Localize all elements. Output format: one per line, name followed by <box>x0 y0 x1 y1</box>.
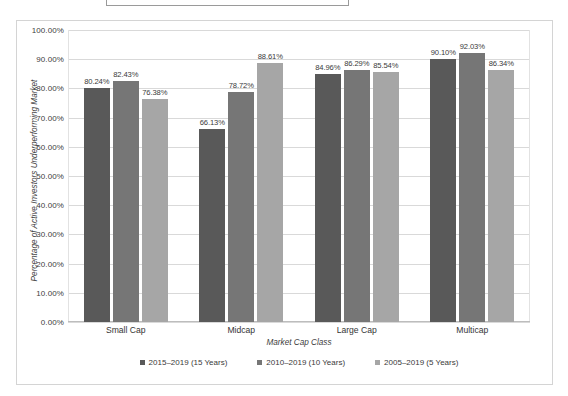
bar-value-label: 80.24% <box>84 77 109 86</box>
y-axis-tick-label: 30.00% <box>36 230 64 239</box>
bar-value-label: 66.13% <box>200 118 225 127</box>
chart-legend: 2015–2019 (15 Years)2010–2019 (10 Years)… <box>68 358 530 367</box>
bar-value-label: 84.96% <box>315 63 340 72</box>
bar-value-label: 90.10% <box>431 48 456 57</box>
bar[interactable]: 80.24% <box>84 88 110 322</box>
x-axis-category-label: Multicap <box>415 325 531 335</box>
bar-group: 90.10%92.03%86.34% <box>415 30 531 322</box>
bar[interactable]: 86.29% <box>344 70 370 322</box>
bar-group: 84.96%86.29%85.54% <box>299 30 415 322</box>
bar-slot: 92.03% <box>459 53 485 322</box>
bar-slot: 78.72% <box>228 92 254 322</box>
bar-value-label: 82.43% <box>113 70 138 79</box>
bar-groups: 80.24%82.43%76.38%66.13%78.72%88.61%84.9… <box>68 30 530 322</box>
y-axis-tick-label: 60.00% <box>36 142 64 151</box>
y-axis-tick-label: 0.00% <box>41 318 64 327</box>
bar-slot: 76.38% <box>142 99 168 322</box>
legend-label: 2005–2019 (5 Years) <box>384 358 458 367</box>
title-box <box>106 0 349 6</box>
bar[interactable]: 66.13% <box>199 129 225 322</box>
gridline <box>68 322 530 323</box>
bar[interactable]: 84.96% <box>315 74 341 322</box>
bar[interactable]: 85.54% <box>373 72 399 322</box>
bar[interactable]: 82.43% <box>113 81 139 322</box>
y-axis-tick-label: 100.00% <box>32 26 64 35</box>
legend-item[interactable]: 2010–2019 (10 Years) <box>257 358 345 367</box>
x-axis-category-labels: Small CapMidcapLarge CapMulticap <box>68 325 530 335</box>
y-axis-tick-label: 80.00% <box>36 84 64 93</box>
bar[interactable]: 88.61% <box>257 63 283 322</box>
bar-slot: 66.13% <box>199 129 225 322</box>
bar-slot: 80.24% <box>84 88 110 322</box>
bar-value-label: 86.29% <box>344 59 369 68</box>
bar[interactable]: 76.38% <box>142 99 168 322</box>
legend-swatch-icon <box>140 360 145 365</box>
bar[interactable]: 86.34% <box>488 70 514 322</box>
bar-value-label: 76.38% <box>142 88 167 97</box>
y-axis-tick-label: 10.00% <box>36 288 64 297</box>
bar-value-label: 92.03% <box>460 42 485 51</box>
bar-slot: 86.34% <box>488 70 514 322</box>
bar-slot: 85.54% <box>373 72 399 322</box>
legend-swatch-icon <box>375 360 380 365</box>
bar-slot: 86.29% <box>344 70 370 322</box>
plot-area: 80.24%82.43%76.38%66.13%78.72%88.61%84.9… <box>68 30 530 322</box>
y-axis-tick-label: 40.00% <box>36 201 64 210</box>
y-axis-tick-label: 50.00% <box>36 172 64 181</box>
legend-item[interactable]: 2015–2019 (15 Years) <box>140 358 228 367</box>
legend-label: 2010–2019 (10 Years) <box>266 358 345 367</box>
x-axis-category-label: Midcap <box>184 325 300 335</box>
x-axis-title: Market Cap Class <box>68 338 530 347</box>
legend-swatch-icon <box>257 360 262 365</box>
legend-item[interactable]: 2005–2019 (5 Years) <box>375 358 458 367</box>
y-axis-tick-labels: 0.00%10.00%20.00%30.00%40.00%50.00%60.00… <box>16 30 64 322</box>
bar[interactable]: 92.03% <box>459 53 485 322</box>
bar-slot: 82.43% <box>113 81 139 322</box>
bar-group: 66.13%78.72%88.61% <box>184 30 300 322</box>
bar-slot: 84.96% <box>315 74 341 322</box>
bar-value-label: 85.54% <box>373 61 398 70</box>
x-axis-category-label: Large Cap <box>299 325 415 335</box>
chart-page: 0.00%10.00%20.00%30.00%40.00%50.00%60.00… <box>0 0 568 396</box>
x-axis-category-label: Small Cap <box>68 325 184 335</box>
y-axis-tick-label: 90.00% <box>36 55 64 64</box>
y-axis-tick-label: 20.00% <box>36 259 64 268</box>
y-axis-tick-label: 70.00% <box>36 113 64 122</box>
bar-slot: 88.61% <box>257 63 283 322</box>
bar-value-label: 78.72% <box>229 81 254 90</box>
bar-slot: 90.10% <box>430 59 456 322</box>
bar-value-label: 86.34% <box>489 59 514 68</box>
legend-label: 2015–2019 (15 Years) <box>149 358 228 367</box>
bar-group: 80.24%82.43%76.38% <box>68 30 184 322</box>
bar[interactable]: 90.10% <box>430 59 456 322</box>
y-axis-title: Percentage of Active Investors Underperf… <box>30 51 39 311</box>
bar[interactable]: 78.72% <box>228 92 254 322</box>
bar-value-label: 88.61% <box>258 52 283 61</box>
